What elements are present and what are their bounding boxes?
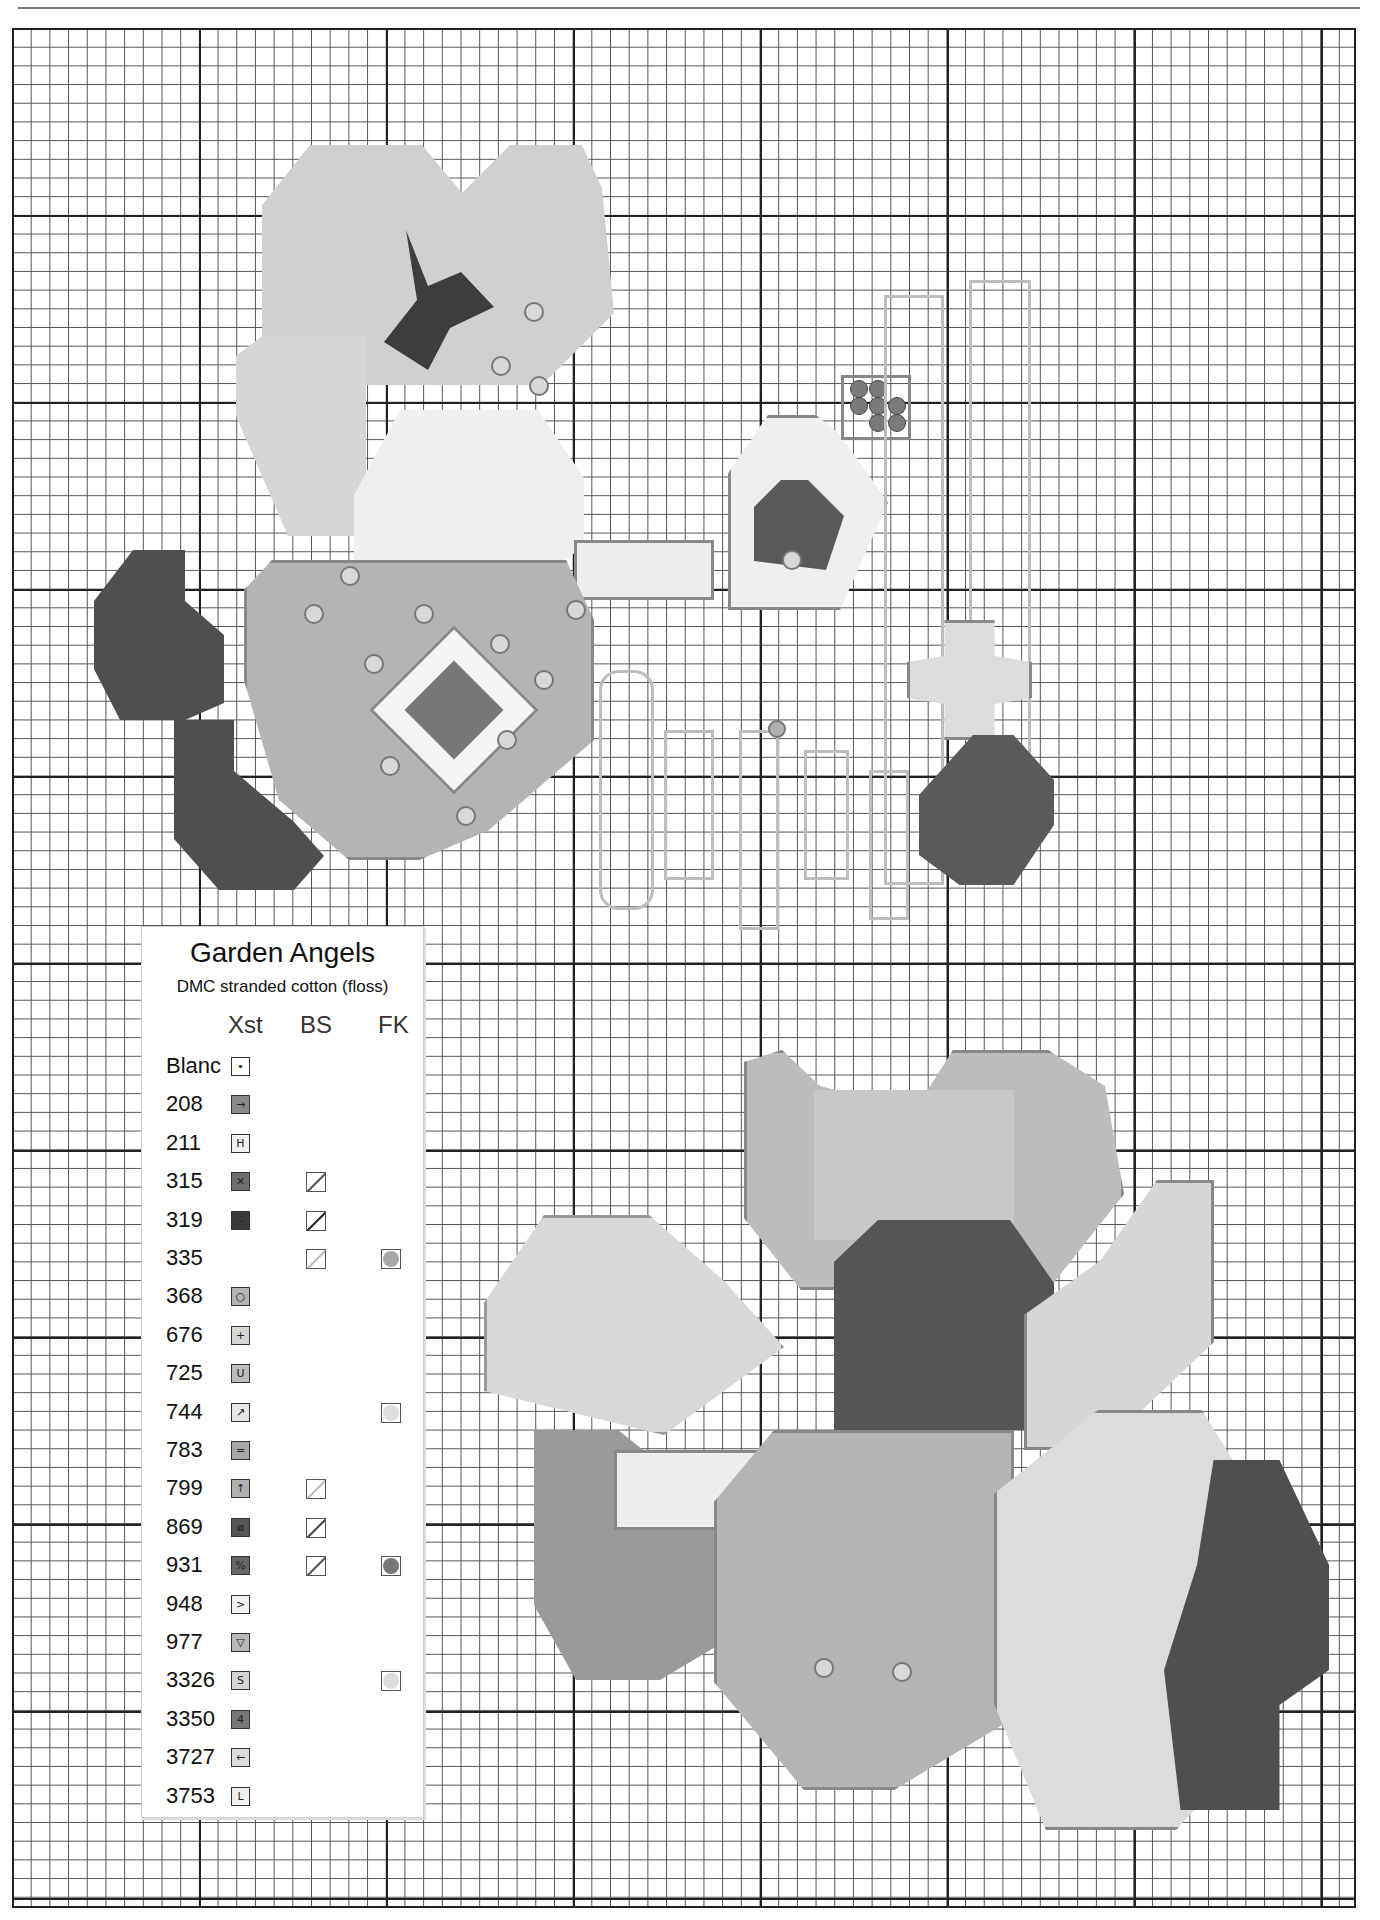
french-knot-flower [364,654,384,674]
backstitch-swatch-icon [306,1249,326,1269]
floss-code: 3326 [166,1667,215,1693]
french-knot-swatch-icon [381,1249,401,1269]
french-knot-flower [534,670,554,690]
legend-row: 335 [142,1241,423,1279]
french-knot-flower [380,756,400,776]
legend-row: 33504 [142,1702,423,1740]
xst-symbol-swatch: – [231,1211,250,1230]
xst-symbol-swatch: L [231,1787,250,1806]
french-knot-flower [524,302,544,322]
motif-bottom-flower-bed [714,1430,1014,1790]
floss-code: 948 [166,1591,203,1617]
xst-symbol-swatch: → [231,1095,250,1114]
xst-symbol-swatch: % [231,1556,250,1575]
french-knot-flower [304,604,324,624]
xst-symbol-swatch: ○ [231,1287,250,1306]
french-knot-swatch-icon [381,1556,401,1576]
xst-symbol-swatch: ↗ [231,1403,250,1422]
backstitch-lettering [869,770,909,920]
legend-row: 869ø [142,1510,423,1548]
legend-row: 725U [142,1356,423,1394]
legend-row: 211H [142,1126,423,1164]
french-knot-flower [490,634,510,654]
motif-bottom-angel-dark [834,1220,1054,1430]
xst-symbol-swatch: U [231,1364,250,1383]
header-rule [18,7,1360,9]
french-knot-swatch-icon [381,1671,401,1691]
legend-col-fk: FK [378,1011,409,1039]
floss-code: 783 [166,1437,203,1463]
xst-symbol-swatch: = [231,1441,250,1460]
xst-symbol-swatch: ← [231,1748,250,1767]
legend-row: 948> [142,1587,423,1625]
french-knot-flower [340,566,360,586]
backstitch-swatch-icon [306,1172,326,1192]
floss-code: 319 [166,1207,203,1233]
xst-symbol-swatch: ø [231,1518,250,1537]
french-knot-swatch-icon [381,1403,401,1423]
xst-symbol-swatch: ↑ [231,1479,250,1498]
legend-row: Blanc• [142,1049,423,1087]
french-knot-lettering [768,720,786,738]
french-knot-flower [529,376,549,396]
bead-cluster-bead [850,380,868,398]
legend-subtitle: DMC stranded cotton (floss) [142,977,423,997]
french-knot-flower [491,356,511,376]
legend-row: 676+ [142,1318,423,1356]
floss-code: 368 [166,1283,203,1309]
floss-code: 3350 [166,1706,215,1732]
french-knot-flower [814,1658,834,1678]
floss-code: 977 [166,1629,203,1655]
legend-row: 3727← [142,1740,423,1778]
floss-code: 335 [166,1245,203,1271]
legend-row: 3326S [142,1663,423,1701]
xst-symbol-swatch: • [231,1057,250,1076]
xst-symbol-swatch: 4 [231,1710,250,1729]
floss-code: 3753 [166,1783,215,1809]
xst-symbol-swatch: S [231,1671,250,1690]
motif-watering-can [484,1215,784,1435]
xst-symbol-swatch: ▽ [231,1633,250,1652]
legend-row: 208→ [142,1087,423,1125]
legend-row: 799↑ [142,1471,423,1509]
legend-row: 315✕ [142,1164,423,1202]
bead-cluster-bead [850,397,868,415]
backstitch-swatch-icon [306,1479,326,1499]
backstitch-swatch-icon [306,1556,326,1576]
legend-col-bs: BS [300,1011,332,1039]
french-knot-flower [414,604,434,624]
backstitch-lettering [664,730,714,880]
xst-symbol-swatch: H [231,1134,250,1153]
floss-code: Blanc [166,1053,221,1079]
floss-code: 725 [166,1360,203,1386]
legend-row: 783= [142,1433,423,1471]
backstitch-swatch-icon [306,1211,326,1231]
floss-code: 208 [166,1091,203,1117]
motif-plank [574,540,714,600]
legend-title: Garden Angels [142,937,423,969]
legend-panel: Garden Angels DMC stranded cotton (floss… [141,926,424,1818]
floss-code: 3727 [166,1744,215,1770]
floss-code: 676 [166,1322,203,1348]
legend-row: 319– [142,1203,423,1241]
motif-dark-pot-upper [94,550,224,720]
legend-row: 931% [142,1548,423,1586]
floss-code: 869 [166,1514,203,1540]
legend-row: 3753L [142,1779,423,1817]
xst-symbol-swatch: + [231,1326,250,1345]
backstitch-lettering [804,750,849,880]
floss-code: 744 [166,1399,203,1425]
xst-symbol-swatch: > [231,1595,250,1614]
motif-angel-dress [354,410,584,580]
motif-bottom-angel-body [814,1090,1014,1240]
xst-symbol-swatch: ✕ [231,1172,250,1191]
legend-row: 368○ [142,1279,423,1317]
french-knot-flower [497,730,517,750]
backstitch-lettering [739,730,779,930]
legend-col-xst: Xst [228,1011,263,1039]
french-knot-flower [892,1662,912,1682]
legend-row: 977▽ [142,1625,423,1663]
floss-code: 211 [166,1130,201,1156]
french-knot-flower [456,806,476,826]
backstitch-swatch-icon [306,1518,326,1538]
